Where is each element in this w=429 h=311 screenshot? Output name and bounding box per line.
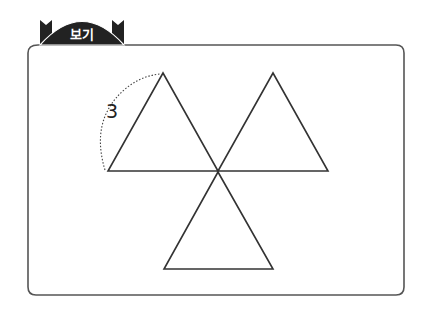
badge-label: 보기 [62, 24, 102, 43]
example-box-border [28, 45, 404, 295]
diagram-canvas [0, 0, 429, 311]
lower-triangle [164, 172, 273, 269]
upper-right-triangle [218, 73, 328, 171]
upper-left-triangle [108, 73, 218, 171]
side-length-arc [100, 74, 160, 170]
side-length-label: 3 [106, 100, 118, 122]
